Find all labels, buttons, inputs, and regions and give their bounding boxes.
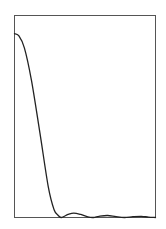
- plot-frame: [15, 16, 156, 218]
- line-chart: [0, 0, 166, 229]
